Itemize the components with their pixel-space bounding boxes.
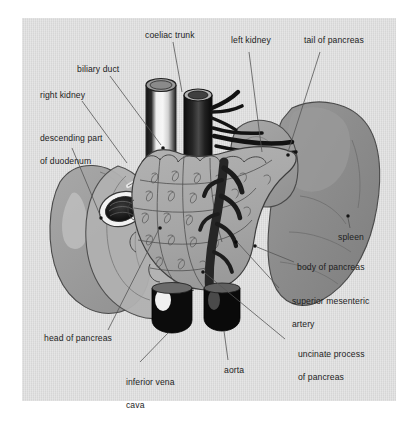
- ivc-lower-structure: [152, 283, 192, 334]
- label-uncinate-process-of-pancreas: uncinate process of pancreas: [288, 338, 365, 395]
- uncinate-process-marker: [201, 270, 205, 274]
- body-of-pancreas-marker: [253, 244, 257, 248]
- tail-of-pancreas-marker: [286, 153, 290, 157]
- leader-ivc: [140, 333, 168, 362]
- label-tail-of-pancreas: tail of pancreas: [304, 35, 364, 46]
- label-line-2: cava: [126, 400, 145, 410]
- label-aorta: aorta: [224, 365, 244, 376]
- leader-aorta: [224, 331, 228, 360]
- label-spleen: spleen: [338, 232, 364, 243]
- spleen-marker: [346, 214, 349, 217]
- label-coeliac-trunk: coeliac trunk: [145, 30, 195, 41]
- label-descending-part-of-duodenum: descending part of duodenum: [30, 122, 103, 179]
- label-right-kidney: right kidney: [40, 90, 85, 101]
- label-line-1: descending part: [40, 133, 103, 143]
- aorta-lower-structure: [204, 283, 240, 331]
- label-line-1: uncinate process: [298, 349, 365, 359]
- anatomy-figure: coeliac trunk left kidney tail of pancre…: [0, 0, 418, 424]
- label-line-2: of pancreas: [298, 372, 344, 382]
- label-line-2: artery: [292, 319, 315, 329]
- label-superior-mesenteric-artery: superior mesenteric artery: [282, 285, 369, 342]
- label-left-kidney: left kidney: [231, 35, 271, 46]
- label-line-1: inferior vena: [126, 377, 175, 387]
- duodenum-marker: [99, 216, 102, 219]
- label-head-of-pancreas: head of pancreas: [44, 333, 112, 344]
- label-line-2: of duodenum: [40, 156, 91, 166]
- label-inferior-vena-cava: inferior vena cava: [116, 366, 175, 423]
- sma-marker: [234, 240, 238, 244]
- label-biliary-duct: biliary duct: [77, 64, 119, 75]
- label-body-of-pancreas: body of pancreas: [297, 262, 365, 273]
- label-line-1: superior mesenteric: [292, 296, 369, 306]
